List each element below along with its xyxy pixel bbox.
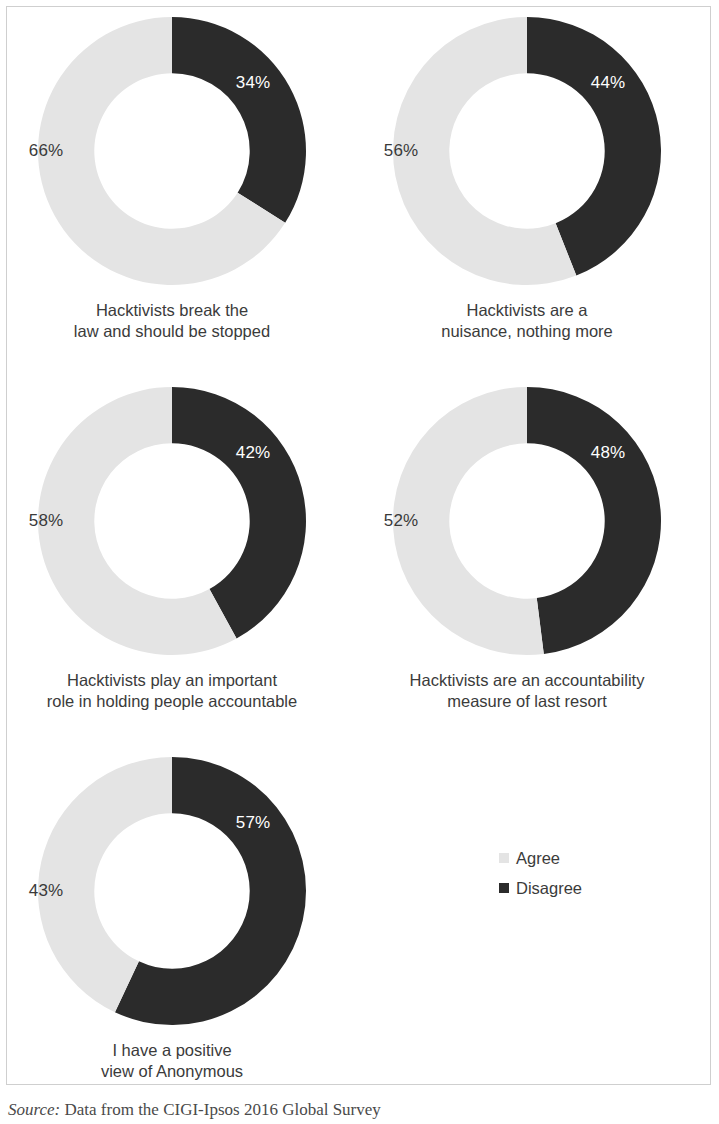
donut-svg <box>36 385 308 657</box>
figure-frame: 34% 66% Hacktivists break the law and sh… <box>6 6 711 1085</box>
legend-item-agree: Agree <box>499 843 679 873</box>
donut-panel: 34% 66% Hacktivists break the law and sh… <box>7 15 337 342</box>
agree-percent-label: 56% <box>384 141 419 161</box>
panel-caption: Hacktivists are an accountability measur… <box>362 670 692 712</box>
panel-caption: Hacktivists are a nuisance, nothing more <box>362 300 692 342</box>
donut-slice-disagree <box>527 387 661 654</box>
donut-svg <box>36 755 308 1027</box>
donut-panel: 57% 43% I have a positive view of Anonym… <box>7 755 337 1082</box>
donut-chart: 57% 43% <box>36 755 308 1027</box>
disagree-percent-label: 44% <box>591 73 626 93</box>
donut-svg <box>36 15 308 287</box>
disagree-percent-label: 42% <box>236 443 271 463</box>
donut-chart: 44% 56% <box>391 15 663 287</box>
donut-chart: 42% 58% <box>36 385 308 657</box>
donut-svg <box>391 15 663 287</box>
legend-item-disagree: Disagree <box>499 873 679 903</box>
donut-chart: 34% 66% <box>36 15 308 287</box>
donut-chart: 48% 52% <box>391 385 663 657</box>
legend-swatch-disagree <box>499 883 509 893</box>
donut-panel: 48% 52% Hacktivists are an accountabilit… <box>362 385 692 712</box>
donut-slice-disagree <box>172 17 306 223</box>
donut-chart-grid: 34% 66% Hacktivists break the law and sh… <box>7 7 712 1086</box>
panel-caption: I have a positive view of Anonymous <box>7 1040 337 1082</box>
chart-legend: Agree Disagree <box>499 843 679 903</box>
source-lead: Source: <box>8 1100 60 1119</box>
source-caption: Source: Data from the CIGI-Ipsos 2016 Gl… <box>8 1100 708 1120</box>
legend-swatch-agree <box>499 853 509 863</box>
agree-percent-label: 43% <box>29 881 64 901</box>
source-text: Data from the CIGI-Ipsos 2016 Global Sur… <box>60 1100 381 1119</box>
panel-caption: Hacktivists break the law and should be … <box>7 300 337 342</box>
agree-percent-label: 66% <box>29 141 64 161</box>
donut-panel: 42% 58% Hacktivists play an important ro… <box>7 385 337 712</box>
donut-svg <box>391 385 663 657</box>
panel-caption: Hacktivists play an important role in ho… <box>7 670 337 712</box>
disagree-percent-label: 34% <box>236 73 271 93</box>
donut-panel: 44% 56% Hacktivists are a nuisance, noth… <box>362 15 692 342</box>
agree-percent-label: 58% <box>29 511 64 531</box>
agree-percent-label: 52% <box>384 511 419 531</box>
disagree-percent-label: 48% <box>591 443 626 463</box>
legend-label-agree: Agree <box>516 850 560 867</box>
legend-label-disagree: Disagree <box>516 880 582 897</box>
disagree-percent-label: 57% <box>236 813 271 833</box>
